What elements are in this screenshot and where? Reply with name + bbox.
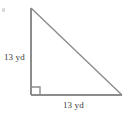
right-angle-marker-icon	[32, 87, 40, 95]
right-triangle-figure: 13 yd 13 yd	[0, 0, 129, 116]
horizontal-leg-label: 13 yd	[63, 100, 84, 110]
hypotenuse-line	[31, 8, 122, 95]
vertical-leg-label: 13 yd	[4, 52, 25, 62]
